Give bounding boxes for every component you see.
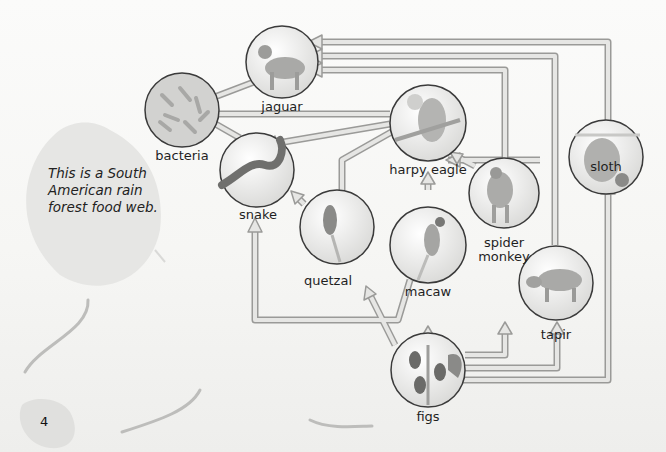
jaguar-label: jaguar <box>261 100 302 114</box>
quetzal-label: quetzal <box>304 274 352 288</box>
node-circles <box>145 26 643 407</box>
bacteria-image <box>145 73 219 147</box>
page-number: 4 <box>40 414 48 429</box>
food-web-diagram: jaguar bacteria harpy eagle sloth snake … <box>0 0 666 452</box>
bacteria-label: bacteria <box>155 149 208 163</box>
caption-text: This is a South American rain forest foo… <box>48 165 158 216</box>
tapir-label: tapir <box>541 328 571 342</box>
snake-label: snake <box>239 208 277 222</box>
harpy-eagle-label: harpy eagle <box>389 163 466 177</box>
figs-label: figs <box>416 410 439 424</box>
sloth-label: sloth <box>590 160 622 174</box>
macaw-label: macaw <box>405 285 451 299</box>
food-web-graphic <box>0 0 666 452</box>
spider-monkey-label-line2: monkey <box>478 250 530 264</box>
spider-monkey-label-line1: spider <box>484 236 524 250</box>
